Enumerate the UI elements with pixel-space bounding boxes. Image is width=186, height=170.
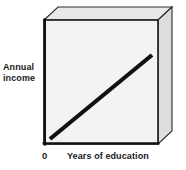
block-top-face (44, 7, 172, 20)
plot-area-inner-shade (46, 22, 157, 143)
three-dimensional-plot-block (0, 0, 186, 170)
figure-container: Annual income 0 Years of education (0, 0, 186, 170)
x-axis-label: Years of education (67, 151, 149, 162)
y-axis-label: Annual income (3, 62, 43, 84)
y-axis-label-line-2: income (3, 73, 43, 84)
block-right-face (158, 7, 172, 144)
y-axis-label-line-1: Annual (3, 62, 34, 72)
x-axis-origin-tick-label: 0 (42, 150, 47, 161)
